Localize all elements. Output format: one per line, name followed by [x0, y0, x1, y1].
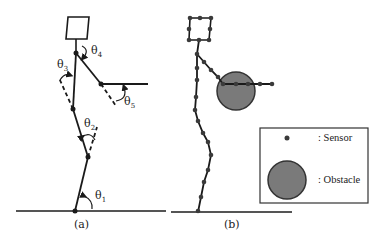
caption-b: (b) — [224, 218, 240, 231]
joint-shoulder-a — [74, 51, 79, 56]
label-theta5: θ5 — [124, 95, 135, 110]
joint-1-a — [73, 209, 78, 214]
link-3-a — [73, 53, 76, 109]
ref-dashed-5 — [101, 84, 116, 106]
label-theta3: θ3 — [57, 58, 68, 73]
joint-elbow-a — [99, 82, 104, 87]
angle-arc-theta1 — [84, 196, 92, 209]
label-theta1: θ1 — [95, 189, 106, 204]
angle-arc-theta3 — [60, 75, 70, 80]
ref-dashed-3 — [59, 78, 73, 109]
head-square-b — [189, 18, 211, 40]
label-theta2: θ2 — [84, 117, 95, 132]
obstacle-circle-icon — [268, 161, 306, 199]
caption-a: (a) — [74, 218, 89, 231]
label-theta4: θ4 — [91, 44, 103, 59]
head-square-a — [66, 17, 89, 39]
angle-arc-theta2 — [82, 135, 95, 140]
sensor-dot-icon — [285, 136, 290, 141]
legend-label-obstacle: : Obstacle — [318, 174, 361, 185]
obstacle-b — [217, 72, 255, 110]
joint-2-a — [86, 155, 91, 160]
legend: : Sensor : Obstacle — [260, 128, 368, 203]
legend-label-sensor: : Sensor — [318, 132, 353, 143]
robot-arm-diagram: θ1 θ2 θ3 θ4 θ5 (a) — [0, 0, 382, 237]
panel-a: θ1 θ2 θ3 θ4 θ5 (a) — [16, 17, 166, 231]
joint-3-a — [71, 107, 76, 112]
angle-arc-theta4 — [82, 46, 86, 58]
link-1-a — [75, 157, 88, 211]
